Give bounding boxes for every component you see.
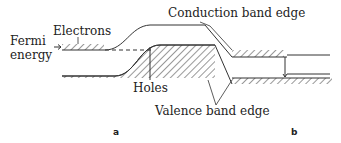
fermi-arrow-icon bbox=[54, 45, 61, 50]
panel-label-a: a bbox=[113, 127, 119, 137]
panel-label-b: b bbox=[291, 127, 298, 137]
holes-label: Holes bbox=[133, 81, 168, 95]
fermi-label-line1: Fermi bbox=[10, 34, 46, 48]
valence-band-label: Valence band edge bbox=[154, 104, 270, 118]
conduction-band-region-b bbox=[232, 50, 284, 57]
band-diagram: Conduction band edge Electrons Fermi ene… bbox=[0, 0, 341, 143]
fermi-label-line2: energy bbox=[10, 48, 52, 62]
conduction-band-label: Conduction band edge bbox=[168, 6, 305, 20]
electrons-label: Electrons bbox=[53, 24, 111, 38]
electrons-region bbox=[62, 44, 104, 50]
